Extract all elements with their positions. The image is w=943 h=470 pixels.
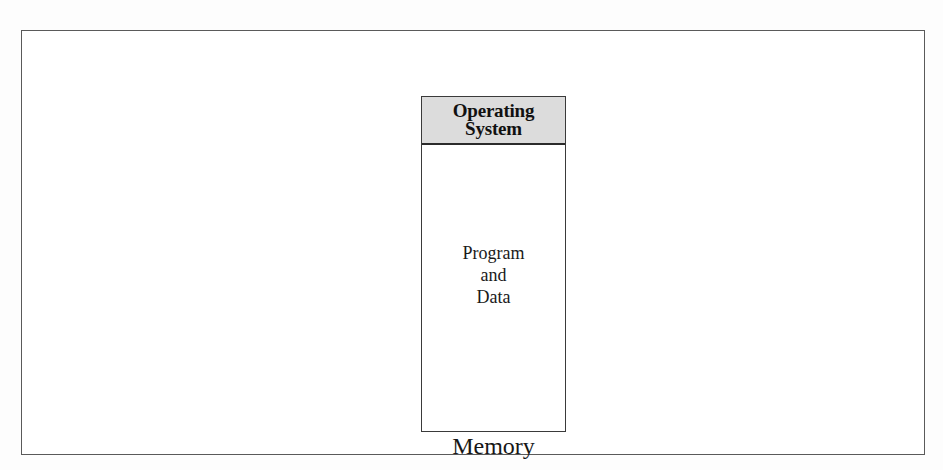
program-and-data-label: Program and Data — [463, 243, 525, 309]
scan-canvas: Operating System Program and Data Memory — [0, 0, 943, 470]
figure-frame: Operating System Program and Data Memory — [21, 30, 925, 455]
memory-partition-user-area: Program and Data — [422, 145, 565, 431]
operating-system-label: Operating System — [453, 102, 535, 137]
memory-block-diagram: Operating System Program and Data — [421, 96, 566, 432]
memory-partition-operating-system: Operating System — [422, 97, 565, 145]
memory-caption-label: Memory — [421, 434, 566, 458]
